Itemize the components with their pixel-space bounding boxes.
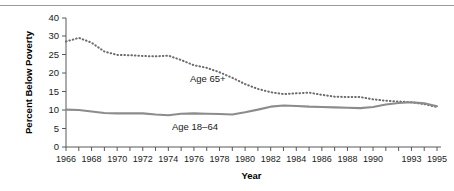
y-tick-label-40: 40 [48,12,59,23]
chart-canvas: 05101520253040 1966196819701972197419761… [0,0,454,191]
data-series-group [66,38,437,115]
x-tick-label-1968: 1968 [82,154,102,164]
y-tick-label-20: 20 [48,67,59,78]
series-annotation-age-18-64: Age 18–64 [172,121,218,132]
y-tick-label-5: 5 [54,123,59,134]
y-axis-tick-labels: 05101520253040 [48,12,59,152]
x-tick-label-1993: 1993 [401,154,421,164]
y-tick-label-0: 0 [54,141,59,152]
x-tick-label-1988: 1988 [337,154,357,164]
x-tick-label-1976: 1976 [184,154,204,164]
y-tick-label-30: 30 [48,30,59,41]
x-tick-label-1970: 1970 [107,154,127,164]
series-annotation-age-65-plus: Age 65+ [190,73,226,84]
x-tick-label-1990: 1990 [363,154,383,164]
x-tick-label-1984: 1984 [286,154,306,164]
x-tick-label-1986: 1986 [312,154,332,164]
x-tick-label-1978: 1978 [210,154,230,164]
y-axis-ticks [62,18,66,147]
series-line-age-18-64 [66,102,437,115]
series-line-age-65-plus [66,38,437,107]
poverty-line-chart: 05101520253040 1966196819701972197419761… [0,0,454,191]
x-tick-label-1974: 1974 [158,154,178,164]
x-tick-label-1972: 1972 [133,154,153,164]
y-tick-label-25: 25 [48,49,59,60]
x-axis-tick-labels: 1966196819701972197419761978198019821984… [56,154,447,164]
x-axis-title: Year [241,170,261,181]
x-tick-label-1980: 1980 [235,154,255,164]
x-tick-label-1995: 1995 [427,154,447,164]
x-axis-ticks [66,147,437,151]
x-axis: 1966196819701972197419761978198019821984… [56,147,447,164]
y-axis-title: Percent Below Poverty [23,30,34,134]
y-tick-label-10: 10 [48,104,59,115]
x-tick-label-1982: 1982 [261,154,281,164]
x-tick-label-1966: 1966 [56,154,76,164]
y-tick-label-15: 15 [48,86,59,97]
y-axis: 05101520253040 [48,12,66,152]
